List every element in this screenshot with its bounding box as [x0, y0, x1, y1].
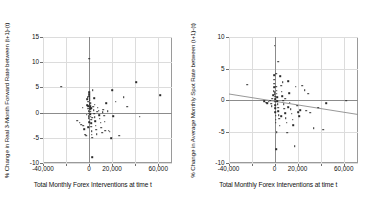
scatter-point [85, 135, 87, 137]
scatter-point [296, 105, 298, 107]
scatter-point [100, 122, 102, 124]
scatter-point [287, 80, 289, 82]
x-gridline [112, 37, 113, 163]
scatter-point [246, 84, 248, 86]
y-gridline [43, 62, 172, 63]
scatter-point [288, 92, 290, 94]
scatter-point [277, 111, 279, 113]
scatter-point [277, 104, 279, 106]
scatter-point [274, 75, 276, 77]
y-gridline [229, 163, 358, 164]
scatter-point [299, 116, 301, 118]
scatter-point [269, 100, 271, 102]
scatter-point [295, 86, 297, 88]
scatter-point [89, 99, 91, 101]
right-x-axis-label: Total Monthly Forex Interventions at tim… [186, 181, 371, 188]
scatter-point [110, 138, 112, 140]
scatter-point [282, 95, 284, 97]
scatter-point [304, 89, 306, 91]
scatter-point [109, 131, 111, 133]
scatter-point [93, 113, 95, 115]
scatter-point [90, 119, 92, 121]
scatter-point [92, 90, 94, 92]
scatter-point [103, 109, 105, 111]
scatter-point [279, 125, 281, 127]
scatter-point [123, 96, 125, 98]
x-tick-label: 0 [273, 166, 277, 172]
scatter-point [278, 118, 280, 120]
scatter-point [301, 85, 303, 87]
y-tick [40, 87, 43, 88]
x-tick-label: 60,000 [334, 166, 354, 172]
scatter-point [94, 104, 96, 106]
scatter-point [100, 127, 102, 129]
scatter-point [98, 110, 100, 112]
scatter-point [280, 116, 282, 118]
scatter-point [305, 110, 307, 112]
scatter-point [91, 130, 93, 132]
y-tick-label: -10 [215, 160, 224, 166]
y-gridline [43, 138, 172, 139]
scatter-point [106, 102, 108, 104]
scatter-point [76, 120, 78, 122]
y-tick-label: 0 [221, 97, 225, 103]
scatter-point [84, 128, 86, 130]
scatter-point [270, 103, 272, 105]
left-y-axis-label: % Change in Real 3-Month Forward Rate be… [0, 0, 13, 201]
scatter-point [284, 112, 286, 114]
scatter-point [88, 126, 90, 128]
scatter-point [97, 107, 99, 109]
scatter-point [93, 98, 95, 100]
scatter-point [283, 104, 285, 106]
scatter-point [275, 111, 277, 113]
right-y-axis-label: % Change in Average Monthly Spot Rate be… [185, 0, 199, 201]
scatter-point [93, 109, 95, 111]
x-gridline [43, 37, 44, 163]
scatter-point [318, 107, 320, 109]
scatter-point [99, 118, 101, 120]
scatter-point [96, 133, 98, 135]
scatter-point [284, 108, 286, 110]
scatter-point [101, 132, 103, 134]
left-plot-frame [43, 37, 172, 163]
scatter-point [91, 126, 93, 128]
scatter-point [275, 107, 277, 109]
scatter-point [94, 120, 96, 122]
figure-two-scatter-panels: % Change in Real 3-Month Forward Rate be… [0, 0, 371, 201]
x-tick-label: 0 [87, 166, 91, 172]
scatter-point [91, 137, 93, 139]
x-tick-label: 20,000 [288, 166, 308, 172]
scatter-point [135, 82, 137, 84]
scatter-point [107, 110, 109, 112]
scatter-point [280, 85, 282, 87]
scatter-point [271, 106, 273, 108]
scatter-point [61, 86, 63, 88]
scatter-point [286, 132, 288, 134]
y-gridline [43, 163, 172, 164]
left-x-axis-label: Total Monthly Forex Interventions at tim… [0, 181, 186, 188]
scatter-point [345, 100, 347, 102]
scatter-point [322, 129, 324, 131]
y-tick [40, 62, 43, 63]
scatter-point [291, 113, 293, 115]
scatter-point [300, 109, 302, 111]
scatter-point [281, 91, 283, 93]
scatter-point [276, 90, 278, 92]
trend-line [229, 37, 358, 163]
y-tick [226, 163, 229, 164]
scatter-point [275, 115, 277, 117]
scatter-point [126, 106, 128, 108]
scatter-point [90, 122, 92, 124]
scatter-point [91, 134, 93, 136]
y-tick [40, 138, 43, 139]
scatter-point [285, 117, 287, 119]
y-tick-label: 0 [35, 109, 39, 115]
x-tick-label: 20,000 [102, 166, 122, 172]
scatter-point [95, 129, 97, 131]
scatter-point [309, 112, 311, 114]
scatter-point [118, 135, 120, 137]
scatter-point [98, 114, 100, 116]
scatter-point [284, 98, 286, 100]
scatter-point [276, 86, 278, 88]
scatter-point [293, 124, 295, 126]
